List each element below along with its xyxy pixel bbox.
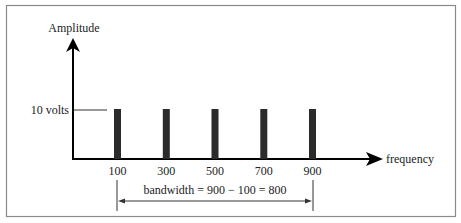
x-tick-label: 300 [157,164,175,178]
bandwidth-label: bandwidth = 900 − 100 = 800 [144,183,287,197]
y-axis-label: Amplitude [48,21,99,35]
bar-500 [212,109,219,159]
x-tick-label: 900 [304,164,322,178]
spectrum-chart: Amplitude frequency 10 volts 10030050070… [0,0,461,223]
bandwidth-right-arrowhead-icon [305,199,312,204]
x-tick-label: 100 [109,164,127,178]
x-axis-label: frequency [386,152,434,166]
x-tick-labels: 100300500700900 [109,164,322,178]
x-tick-label: 700 [255,164,273,178]
x-tick-label: 500 [206,164,224,178]
spectrum-figure: Amplitude frequency 10 volts 10030050070… [0,0,461,223]
bars-group [114,109,316,159]
reference-level-label: 10 volts [31,103,70,117]
bar-900 [309,109,316,159]
bar-100 [114,109,121,159]
bandwidth-left-arrowhead-icon [118,199,125,204]
bar-300 [163,109,170,159]
bar-700 [260,109,267,159]
